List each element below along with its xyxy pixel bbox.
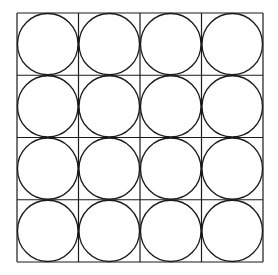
circle-r1-c3 — [141, 14, 202, 75]
circle-r3-c2 — [79, 138, 140, 199]
circle-r4-c1 — [18, 200, 79, 261]
circles-in-grid-diagram — [0, 0, 278, 275]
circle-r4-c4 — [202, 200, 263, 261]
circle-r3-c1 — [18, 138, 79, 199]
circle-r3-c4 — [202, 138, 263, 199]
circle-r4-c3 — [141, 200, 202, 261]
circle-r1-c4 — [202, 14, 263, 75]
circle-r1-c1 — [18, 14, 79, 75]
circle-r3-c3 — [141, 138, 202, 199]
circle-r2-c1 — [18, 76, 79, 137]
circle-r2-c3 — [141, 76, 202, 137]
circle-r1-c2 — [79, 14, 140, 75]
circle-r2-c4 — [202, 76, 263, 137]
circle-r4-c2 — [79, 200, 140, 261]
circle-r2-c2 — [79, 76, 140, 137]
